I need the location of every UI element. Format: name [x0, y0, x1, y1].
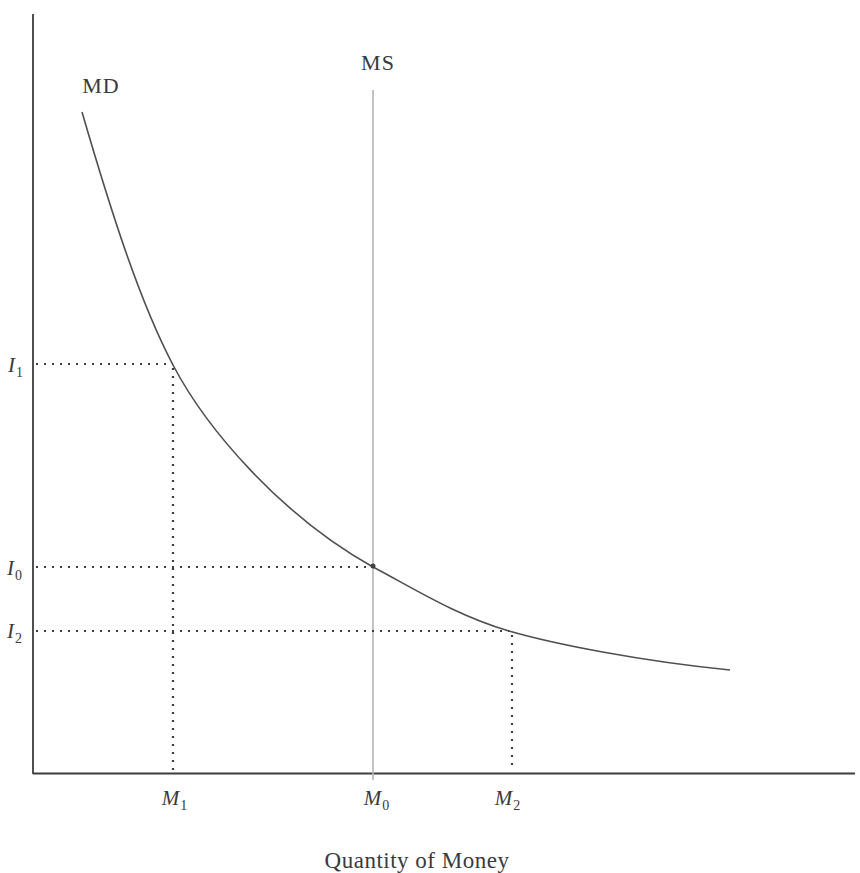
- x-axis-title: Quantity of Money: [325, 849, 510, 872]
- y-tick-i2-subscript: 2: [15, 631, 22, 646]
- y-tick-i1: I1: [8, 355, 22, 376]
- x-tick-m0: M0: [364, 788, 389, 809]
- x-tick-m1-symbol: M: [162, 786, 180, 810]
- supply-curve-label: MS: [361, 52, 395, 74]
- y-tick-i1-symbol: I: [8, 353, 15, 377]
- y-tick-i0: I0: [7, 558, 21, 579]
- chart-canvas: [0, 0, 860, 873]
- money-demand-curve: [82, 112, 730, 670]
- x-tick-m0-symbol: M: [364, 786, 382, 810]
- demand-curve-label: MD: [82, 75, 119, 97]
- x-tick-m1: M1: [162, 788, 187, 809]
- equilibrium-point: [371, 564, 376, 569]
- x-tick-m0-subscript: 0: [382, 798, 389, 813]
- y-tick-i0-symbol: I: [7, 556, 14, 580]
- y-tick-i2: I2: [7, 621, 21, 642]
- money-market-figure: MD MS I1 I0 I2 M1 M0 M2 Quantity of Mone…: [0, 0, 860, 873]
- y-tick-i2-symbol: I: [7, 619, 14, 643]
- x-tick-m2-subscript: 2: [513, 798, 520, 813]
- y-tick-i0-subscript: 0: [15, 568, 22, 583]
- x-tick-m1-subscript: 1: [180, 798, 187, 813]
- y-tick-i1-subscript: 1: [16, 365, 23, 380]
- x-tick-m2-symbol: M: [495, 786, 513, 810]
- x-tick-m2: M2: [495, 788, 520, 809]
